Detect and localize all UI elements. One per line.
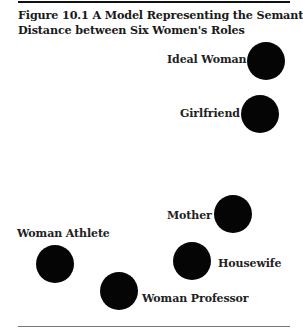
label-woman-professor: Woman Professor	[142, 292, 249, 305]
top-rule	[18, 1, 290, 3]
label-woman-athlete: Woman Athlete	[17, 227, 110, 240]
node-woman-athlete-circle-icon	[36, 245, 74, 283]
node-mother-circle-icon	[214, 195, 252, 233]
node-housewife-circle-icon	[173, 242, 211, 280]
bottom-rule	[18, 326, 290, 327]
node-woman-professor-circle-icon	[100, 272, 138, 310]
node-girlfriend-circle-icon	[241, 95, 279, 133]
node-ideal-woman-circle-icon	[247, 42, 285, 80]
label-housewife: Housewife	[218, 257, 281, 270]
label-mother: Mother	[167, 209, 212, 222]
figure-title-line-1: Figure 10.1 A Model Representing the Sem…	[18, 8, 298, 23]
label-girlfriend: Girlfriend	[180, 107, 240, 120]
label-ideal-woman: Ideal Woman	[167, 53, 246, 66]
figure-title: Figure 10.1 A Model Representing the Sem…	[18, 8, 298, 38]
figure-title-line-2: Distance between Six Women's Roles	[18, 23, 298, 38]
